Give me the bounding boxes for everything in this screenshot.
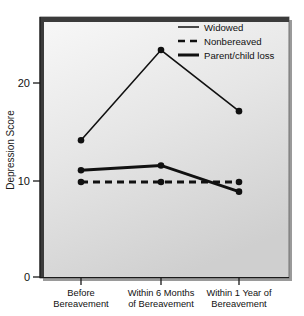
x-category-label-2-line1: Within 1 Year of (206, 288, 272, 298)
data-point-marker (236, 108, 243, 115)
y-axis-ticks (33, 83, 40, 277)
data-point-marker (236, 188, 243, 195)
data-point-marker (78, 137, 85, 144)
data-point-marker (158, 179, 165, 186)
data-point-marker (78, 167, 85, 174)
x-category-label-1-line2: of Bereavement (128, 299, 194, 309)
x-category-label-0-line2: Bereavement (53, 299, 109, 309)
data-point-marker (78, 179, 85, 186)
y-tick-label-0: 0 (24, 271, 30, 283)
x-category-label-2-line2: Bereavement (211, 299, 267, 309)
y-axis-title: Depression Score (5, 110, 16, 190)
legend-label-parent-child-loss: Parent/child loss (204, 50, 275, 61)
depression-score-line-chart: 20 10 0 Depression Score Before Bereavem… (0, 0, 304, 316)
chart-canvas: 20 10 0 Depression Score Before Bereavem… (0, 0, 304, 316)
data-point-marker (158, 162, 165, 169)
y-tick-label-20: 20 (18, 77, 30, 89)
x-category-label-1-line1: Within 6 Months (128, 288, 195, 298)
x-category-label-0-line1: Before (67, 288, 94, 298)
legend-label-nonbereaved: Nonbereaved (204, 36, 262, 47)
x-axis-category-labels: Before Bereavement Within 6 Months of Be… (53, 288, 272, 309)
data-point-marker (236, 179, 243, 186)
y-tick-label-10: 10 (18, 175, 30, 187)
legend-label-widowed: Widowed (204, 22, 243, 33)
data-point-marker (158, 47, 165, 54)
